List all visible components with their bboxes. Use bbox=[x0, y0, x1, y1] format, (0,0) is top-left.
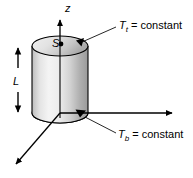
length-label: L bbox=[13, 76, 19, 87]
surface-label: S bbox=[52, 38, 59, 49]
z-axis-label: z bbox=[65, 3, 71, 14]
bottom-boundary-variable: T bbox=[118, 128, 125, 140]
bottom-boundary-relation: = constant bbox=[129, 128, 183, 140]
top-boundary-variable: T bbox=[119, 19, 126, 31]
y-axis bbox=[16, 113, 60, 164]
cylinder-heat-conduction-figure: z L S Tt = constant Tb = constant bbox=[0, 0, 193, 178]
bottom-boundary-label: Tb = constant bbox=[118, 129, 183, 143]
top-boundary-relation: = constant bbox=[128, 19, 182, 31]
top-boundary-leader bbox=[76, 27, 116, 47]
top-boundary-label: Tt = constant bbox=[119, 20, 182, 34]
